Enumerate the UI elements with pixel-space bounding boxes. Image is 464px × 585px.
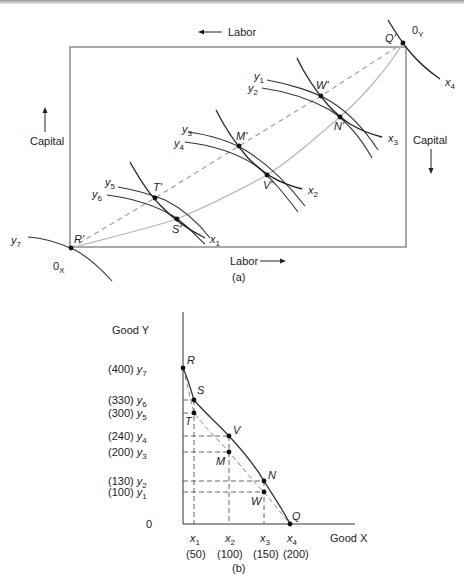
origin-y-label: 0Y: [412, 25, 423, 39]
label-x3: x3: [388, 133, 398, 147]
x-tick-3-value: (150): [253, 549, 279, 560]
point-q-prime: [401, 41, 406, 46]
label-y6: y6: [92, 189, 102, 203]
label-n: N: [268, 470, 276, 481]
labor-top-label: Labor: [228, 27, 256, 38]
label-y5: y5: [105, 177, 115, 191]
point-v: [227, 434, 232, 439]
good-y-axis-label: Good Y: [112, 325, 149, 336]
origin-x-label: 0X: [53, 261, 64, 275]
x-tick-2-value: (100): [217, 549, 243, 560]
label-m: M: [216, 456, 225, 467]
label-v-prime: V': [263, 180, 272, 191]
label-s: S: [197, 385, 204, 396]
origin-label: 0: [146, 519, 152, 530]
point-w: [262, 490, 267, 495]
point-s: [192, 398, 197, 403]
point-q: [288, 522, 293, 527]
x-tick-3: x3: [260, 533, 270, 547]
label-r-prime: R': [74, 234, 84, 245]
label-n-prime: N': [334, 121, 344, 132]
capital-right-arrowhead-icon: [429, 168, 434, 174]
label-t-prime: T': [153, 182, 162, 193]
capital-right-label: Capital: [413, 135, 447, 146]
panel-b-caption: (b): [232, 563, 245, 574]
edgeworth-box-diagram: [0, 0, 464, 585]
label-y3: y3: [182, 124, 192, 138]
label-x1: x1: [210, 234, 220, 248]
point-n: [262, 479, 267, 484]
label-y2: y2: [248, 83, 258, 97]
x-tick-1-value: (50): [186, 549, 206, 560]
point-n-prime: [338, 115, 343, 120]
y-tick-5: (300) y5: [108, 408, 147, 422]
point-t-prime: [153, 196, 158, 201]
x-tick-4: x4: [287, 533, 297, 547]
y-tick-7: (400) y7: [108, 364, 147, 378]
isoquant-y5: [118, 187, 210, 238]
capital-left-label: Capital: [30, 136, 64, 147]
point-m: [227, 450, 232, 455]
isoquant-y4: [185, 142, 298, 212]
label-y4: y4: [174, 138, 184, 152]
y-tick-4: (240) y4: [108, 431, 147, 445]
point-m-prime: [237, 144, 242, 149]
isoquant-x1: [130, 162, 205, 238]
isoquant-y6: [107, 195, 205, 244]
isoquant-x2: [216, 110, 302, 189]
label-q-prime: Q': [385, 33, 396, 44]
y-tick-1: (100) y1: [108, 487, 147, 501]
point-v-prime: [265, 173, 270, 178]
point-t: [192, 411, 197, 416]
x-tick-1: x1: [190, 533, 200, 547]
point-r: [181, 366, 186, 371]
label-s-prime: S': [172, 224, 181, 235]
x-tick-2: x2: [225, 533, 235, 547]
capital-left-arrowhead-icon: [43, 107, 48, 113]
label-w-prime: W': [316, 80, 328, 91]
label-m-prime: M': [236, 131, 247, 142]
point-r-prime: [69, 246, 74, 251]
label-y7: y7: [11, 235, 21, 249]
label-x4: x4: [445, 77, 455, 91]
isoquant-y3: [188, 132, 305, 206]
label-q: Q: [292, 511, 301, 522]
labor-top-arrowhead-icon: [198, 30, 204, 35]
x-tick-4-value: (200): [283, 549, 309, 560]
label-t: T: [185, 416, 192, 427]
label-v: V: [233, 425, 240, 436]
labor-bottom-label: Labor: [230, 256, 258, 267]
panel-a-caption: (a): [232, 272, 245, 283]
label-w: W: [251, 496, 261, 507]
isoquant-y2: [262, 88, 372, 158]
y-tick-3: (200) y3: [108, 447, 147, 461]
labor-bottom-arrowhead-icon: [280, 259, 286, 264]
label-r: R: [187, 355, 195, 366]
good-x-axis-label: Good X: [330, 533, 367, 544]
point-w-prime: [319, 94, 324, 99]
label-x2: x2: [308, 185, 318, 199]
point-s-prime: [175, 217, 180, 222]
